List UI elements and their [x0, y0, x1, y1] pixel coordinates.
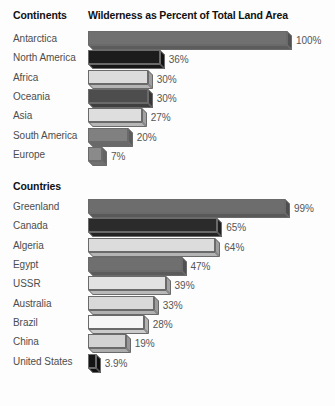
- bar-3d: [88, 128, 133, 147]
- category-label: South America: [13, 130, 77, 141]
- category-label: Antarctica: [13, 33, 57, 44]
- bar-3d: [88, 238, 220, 257]
- category-label: North America: [13, 52, 76, 63]
- category-label: China: [13, 336, 39, 347]
- bar-bottom-face: [88, 64, 165, 69]
- bar-row: North America36%: [0, 50, 335, 69]
- bar-face: [88, 334, 126, 348]
- value-label: 39%: [175, 280, 195, 291]
- value-label: 7%: [111, 151, 125, 162]
- bar-face: [88, 296, 154, 310]
- bar-bottom-face: [88, 232, 222, 237]
- category-label: Egypt: [13, 259, 38, 270]
- bar-row: Europe7%: [0, 147, 335, 166]
- bar-row: Oceania30%: [0, 89, 335, 108]
- value-label: 19%: [135, 338, 155, 349]
- category-label: Brazil: [13, 317, 38, 328]
- bar-3d: [88, 218, 222, 237]
- bar-bottom-face: [88, 84, 153, 89]
- bar-face: [88, 31, 287, 45]
- bar-3d: [88, 70, 153, 89]
- value-label: 100%: [296, 35, 321, 46]
- bar-3d: [88, 89, 153, 108]
- bar-face: [88, 276, 166, 290]
- bar-3d: [88, 315, 149, 334]
- bar-3d: [88, 296, 159, 315]
- bar-face: [88, 315, 144, 329]
- value-label: 33%: [163, 300, 183, 311]
- bar-bottom-face: [88, 252, 220, 257]
- bar-row: USSR39%: [0, 276, 335, 295]
- category-label: Africa: [13, 72, 38, 83]
- value-label: 30%: [157, 93, 177, 104]
- category-label: Asia: [13, 110, 32, 121]
- category-label: USSR: [13, 278, 41, 289]
- wilderness-chart: Continents Wilderness as Percent of Tota…: [0, 0, 335, 406]
- bar-3d: [88, 199, 290, 218]
- bar-bottom-face: [88, 213, 290, 218]
- bar-3d: [88, 50, 165, 69]
- value-label: 28%: [153, 319, 173, 330]
- bar-face: [88, 70, 148, 84]
- value-label: 99%: [294, 203, 314, 214]
- value-label: 3.9%: [105, 358, 128, 369]
- bar-face: [88, 89, 148, 103]
- countries-section-header: Countries: [13, 180, 61, 192]
- bar-face: [88, 108, 142, 122]
- bar-row: Brazil28%: [0, 315, 335, 334]
- bar-3d: [88, 31, 292, 50]
- bar-3d: [88, 108, 147, 127]
- bar-bottom-face: [88, 122, 147, 127]
- bar-bottom-face: [88, 271, 187, 276]
- value-label: 20%: [137, 132, 157, 143]
- chart-header: Continents Wilderness as Percent of Tota…: [0, 9, 335, 25]
- bar-row: Australia33%: [0, 296, 335, 315]
- bar-row: Egypt47%: [0, 257, 335, 276]
- bar-3d: [88, 147, 107, 166]
- chart-title: Wilderness as Percent of Total Land Area: [88, 9, 288, 21]
- category-label: Oceania: [13, 91, 50, 102]
- bar-bottom-face: [88, 290, 171, 295]
- bar-bottom-face: [88, 45, 292, 50]
- bar-row: United States3.9%: [0, 354, 335, 373]
- value-label: 36%: [169, 54, 189, 65]
- bar-face: [88, 218, 217, 232]
- bar-row: China19%: [0, 334, 335, 353]
- bar-row: South America20%: [0, 128, 335, 147]
- bar-face: [88, 147, 102, 161]
- bar-face: [88, 354, 96, 368]
- bar-3d: [88, 354, 101, 373]
- continents-group-header: Continents: [13, 9, 67, 21]
- value-label: 47%: [191, 261, 211, 272]
- value-label: 30%: [157, 74, 177, 85]
- value-label: 64%: [224, 242, 244, 253]
- bar-bottom-face: [88, 348, 131, 353]
- category-label: United States: [13, 356, 72, 367]
- value-label: 65%: [226, 222, 246, 233]
- category-label: Canada: [13, 220, 48, 231]
- category-label: Algeria: [13, 240, 44, 251]
- category-label: Greenland: [13, 201, 59, 212]
- bar-face: [88, 238, 215, 252]
- bar-row: Antarctica100%: [0, 31, 335, 50]
- bar-face: [88, 257, 182, 271]
- bar-3d: [88, 257, 187, 276]
- bar-3d: [88, 276, 171, 295]
- bar-face: [88, 50, 160, 64]
- bar-row: Canada65%: [0, 218, 335, 237]
- bar-3d: [88, 334, 131, 353]
- bar-bottom-face: [88, 310, 159, 315]
- bar-face: [88, 128, 128, 142]
- bar-row: Asia27%: [0, 108, 335, 127]
- bar-row: Algeria64%: [0, 238, 335, 257]
- category-label: Europe: [13, 149, 45, 160]
- bar-bottom-face: [88, 142, 133, 147]
- bar-row: Africa30%: [0, 70, 335, 89]
- bar-face: [88, 199, 285, 213]
- bar-row: Greenland99%: [0, 199, 335, 218]
- bar-bottom-face: [88, 329, 149, 334]
- bar-bottom-face: [88, 103, 153, 108]
- category-label: Australia: [13, 298, 51, 309]
- value-label: 27%: [151, 112, 171, 123]
